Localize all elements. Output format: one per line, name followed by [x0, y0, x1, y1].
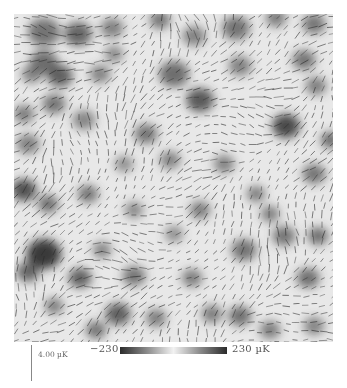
colorbar-gradient — [120, 347, 227, 354]
cmb-polarization-map — [14, 14, 333, 342]
colorbar-min-label: −230 — [90, 343, 119, 355]
polarization-scale-bar — [31, 345, 32, 381]
polarization-scale-label: 4.00 µK — [38, 350, 68, 360]
colorbar-max-label: 230 µK — [232, 343, 270, 355]
temperature-polarization-plot — [14, 14, 333, 342]
